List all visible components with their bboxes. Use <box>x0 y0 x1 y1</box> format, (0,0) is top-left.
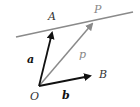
point-label-P: P <box>94 3 101 16</box>
point-label-O: O <box>30 90 39 103</box>
line-through-A-and-P <box>16 12 133 37</box>
point-label-A: A <box>48 10 56 23</box>
vector-label-p: p <box>79 48 86 61</box>
diagram-svg <box>0 0 140 107</box>
vector-diagram: A P B O a p b <box>0 0 140 107</box>
vector-label-a: a <box>27 53 34 66</box>
vector-label-b: b <box>62 89 70 102</box>
point-label-B: B <box>99 68 107 81</box>
